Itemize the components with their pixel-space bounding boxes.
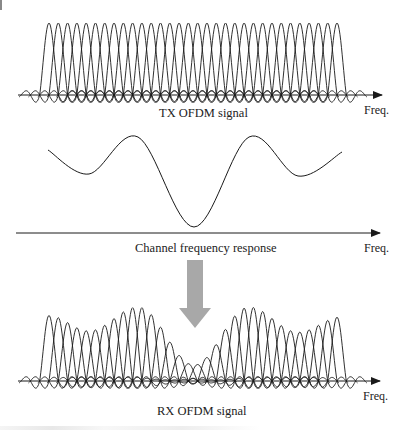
tx-signal-label: TX OFDM signal	[159, 106, 248, 121]
rx-signal-label: RX OFDM signal	[157, 404, 247, 419]
figure-caption-truncated	[0, 426, 260, 430]
channel-frequency-response	[16, 136, 380, 233]
tx-freq-axis-label: Freq.	[364, 103, 389, 118]
ofdm-channel-diagram	[0, 0, 411, 430]
down-arrow-icon	[179, 260, 211, 328]
channel-response-label: Channel frequency response	[135, 241, 277, 256]
rx-freq-axis-label: Freq.	[363, 389, 388, 404]
channel-freq-axis-label: Freq.	[364, 241, 389, 256]
tx-ofdm-spectrum	[18, 23, 382, 102]
